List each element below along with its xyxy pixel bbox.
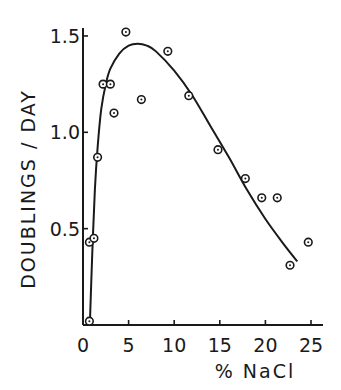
y-tick-label: 1.0 — [50, 121, 80, 143]
y-axis-title: DOUBLINGS / DAY — [17, 89, 39, 289]
data-point-center — [93, 237, 95, 239]
x-tick-label: 20 — [253, 334, 277, 356]
fitted-curve — [90, 44, 297, 325]
data-point-center — [97, 156, 99, 158]
curve-path — [90, 44, 297, 325]
data-point-center — [261, 197, 263, 199]
data-point-center — [276, 197, 278, 199]
x-tick-label: 15 — [208, 334, 232, 356]
x-tick-label: 10 — [162, 334, 186, 356]
x-tick-label: 25 — [299, 334, 323, 356]
data-point-center — [140, 99, 142, 101]
growth-rate-chart: DOUBLINGS / DAY % NaCl 0510152025 0.51.0… — [0, 0, 341, 390]
x-tick-label: 0 — [77, 334, 89, 356]
x-tick-label: 5 — [123, 334, 135, 356]
data-point-center — [88, 320, 90, 322]
y-tick-label: 1.5 — [50, 25, 80, 47]
data-point-center — [102, 83, 104, 85]
data-point-center — [244, 178, 246, 180]
data-point-center — [109, 83, 111, 85]
data-point-center — [167, 50, 169, 52]
data-point-center — [307, 241, 309, 243]
y-tick-label: 0.5 — [50, 218, 80, 240]
data-point-center — [125, 31, 127, 33]
data-point-center — [217, 149, 219, 151]
x-axis-title: % NaCl — [215, 360, 296, 382]
data-point-center — [188, 95, 190, 97]
y-axis-title-text: DOUBLINGS / DAY — [17, 89, 39, 289]
data-point-center — [113, 112, 115, 114]
data-points — [86, 28, 312, 325]
data-point-center — [289, 264, 291, 266]
data-point-center — [88, 241, 90, 243]
